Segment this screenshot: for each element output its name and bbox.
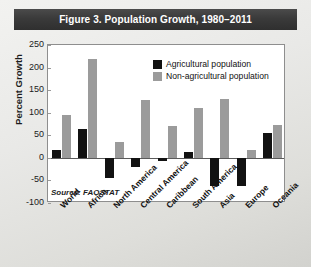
y-tick-mark [48, 68, 51, 69]
y-axis-ticks: 250200150100500-50-100 [14, 44, 44, 202]
bar-agricultural [184, 152, 193, 157]
y-tick-mark [48, 135, 51, 136]
bar-nonagricultural [194, 108, 203, 158]
page-title: Figure 3. Population Growth, 1980–2011 [59, 14, 252, 25]
bar-nonagricultural [220, 99, 229, 158]
bar-nonagricultural [141, 100, 150, 158]
bar-nonagricultural [273, 125, 282, 158]
bar-agricultural [78, 129, 87, 158]
legend-item: Non-agricultural population [153, 71, 269, 81]
y-tick-label: -50 [31, 174, 44, 184]
y-tick-mark [48, 45, 51, 46]
y-tick-mark [48, 158, 51, 159]
bar-nonagricultural [88, 59, 97, 158]
x-axis-ticks: WorldAfricaNorth AmericaCentral AmericaC… [47, 203, 285, 265]
bar-nonagricultural [168, 126, 177, 158]
bar-agricultural [52, 150, 61, 158]
bar-agricultural [158, 158, 167, 162]
bar-agricultural [105, 158, 114, 178]
y-tick-label: 250 [29, 39, 44, 49]
y-tick-mark [48, 180, 51, 181]
legend-swatch-agricultural [153, 60, 162, 69]
bar-agricultural [237, 158, 246, 186]
legend-swatch-nonagricultural [153, 72, 162, 81]
bar-agricultural [131, 158, 140, 167]
y-tick-label: -100 [26, 197, 44, 207]
y-tick-label: 0 [39, 152, 44, 162]
y-tick-label: 100 [29, 107, 44, 117]
legend-label-nonagricultural: Non-agricultural population [166, 71, 269, 81]
figure-title-bar: Figure 3. Population Growth, 1980–2011 [14, 9, 297, 30]
bar-agricultural [263, 133, 272, 158]
figure-container: Figure 3. Population Growth, 1980–2011 P… [0, 0, 311, 267]
bar-nonagricultural [115, 142, 124, 158]
bar-nonagricultural [247, 150, 256, 158]
legend-label-agricultural: Agricultural population [166, 59, 251, 69]
y-tick-label: 200 [29, 62, 44, 72]
y-tick-mark [48, 113, 51, 114]
chart-legend: Agricultural population Non-agricultural… [153, 59, 269, 81]
bar-nonagricultural [62, 115, 71, 158]
y-tick-label: 50 [34, 129, 44, 139]
y-tick-label: 150 [29, 84, 44, 94]
legend-item: Agricultural population [153, 59, 269, 69]
y-tick-mark [48, 90, 51, 91]
